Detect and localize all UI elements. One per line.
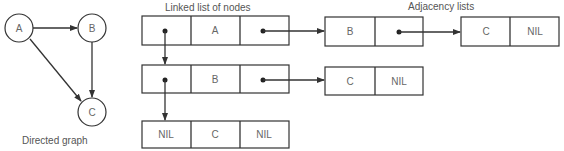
node-list-title: Linked list of nodes [165,2,251,13]
graph-caption: Directed graph [22,135,88,146]
node-record-b: B [142,65,289,93]
adjacency-lists: Adjacency lists B C NIL C NIL [325,1,559,95]
graph-node-c: C [78,98,106,126]
adj-node: C [482,26,489,37]
node-label: A [16,23,23,34]
node-label: B [89,23,96,34]
nil-value: NIL [527,26,543,37]
nil-value: NIL [158,129,174,140]
node-name: B [212,74,219,85]
adj-node: C [346,76,353,87]
graph-representation-diagram: A B C Directed graph Linked list of node… [0,0,564,151]
directed-graph: A B C Directed graph [5,14,106,146]
graph-node-a: A [5,14,33,42]
adj-node: B [347,26,354,37]
node-list: Linked list of nodes A B NIL C NIL [142,2,324,148]
node-name: C [211,129,218,140]
adj-entry-b-c: C NIL [325,67,423,95]
nil-value: NIL [391,76,407,87]
nil-value: NIL [256,129,272,140]
node-name: A [212,25,219,36]
adj-entry-a-c: C NIL [461,17,559,46]
graph-node-b: B [78,14,106,42]
adjacency-title: Adjacency lists [408,1,474,12]
node-record-c: NIL C NIL [142,121,289,148]
edge-a-c [30,39,81,101]
node-label: C [88,107,95,118]
